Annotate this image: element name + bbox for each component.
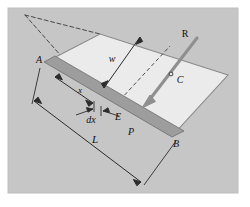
diagram-canvas: A B C E P R w x dx L — [0, 0, 250, 207]
label-width-w: w — [109, 53, 116, 64]
label-dist-x: x — [77, 85, 82, 95]
label-point-e: E — [114, 111, 121, 122]
figure-root: A B C E P R w x dx L — [0, 0, 250, 207]
label-point-c: C — [177, 74, 184, 85]
label-force-r: R — [182, 28, 189, 39]
centroid-point-marker — [169, 72, 173, 76]
label-elem-dx: dx — [86, 114, 96, 125]
label-length-l: L — [91, 133, 98, 145]
label-point-b: B — [173, 138, 179, 149]
label-point-a: A — [35, 54, 43, 65]
label-point-p: P — [127, 126, 134, 137]
